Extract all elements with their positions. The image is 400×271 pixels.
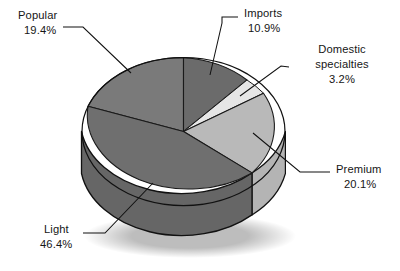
callout-light-label: Light	[44, 223, 70, 235]
callout-domestic-label-line2: specialties	[315, 58, 369, 70]
callout-light-percent: 46.4%	[40, 238, 72, 250]
callout-imports-label: Imports	[244, 7, 282, 19]
callout-domestic-label-line1: Domestic	[318, 43, 366, 55]
leader-line-popular	[63, 27, 131, 73]
callout-domestic-percent: 3.2%	[329, 73, 355, 85]
callout-premium-label: Premium	[336, 163, 382, 175]
callout-popular-label: Popular	[18, 9, 58, 21]
pie-chart-svg: Popular 19.4% Imports 10.9% Domestic spe…	[0, 0, 400, 271]
callout-imports-percent: 10.9%	[248, 22, 280, 34]
callout-premium-percent: 20.1%	[344, 178, 376, 190]
callout-popular-percent: 19.4%	[24, 24, 56, 36]
pie-chart-figure: Popular 19.4% Imports 10.9% Domestic spe…	[0, 0, 400, 271]
